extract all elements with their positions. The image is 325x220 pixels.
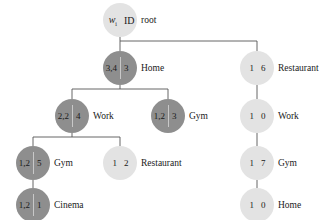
node-home: 3,4 3 (103, 51, 137, 85)
node-id: 4 (76, 111, 81, 121)
node-label: Work (93, 111, 114, 121)
node-label: Restaurant (278, 63, 319, 73)
node-weight: 1 (250, 63, 255, 73)
weight-header: wi (109, 14, 117, 27)
node-restaurant-right: 1 6 (240, 51, 274, 85)
node-weight: 1,2 (19, 158, 30, 168)
node-gym-mid: 1,2 3 (151, 99, 185, 133)
id-header: ID (124, 15, 135, 26)
node-weight: 1 (113, 158, 118, 168)
node-id: 7 (261, 158, 266, 168)
node-label: Work (278, 111, 299, 121)
node-home-right: 1 0 (240, 188, 274, 220)
divider (33, 194, 34, 216)
node-label: Gym (54, 158, 73, 168)
node-gym-left: 1,2 5 (16, 146, 50, 180)
node-weight: 1 (250, 111, 255, 121)
node-id: 6 (261, 63, 266, 73)
divider (120, 57, 121, 79)
node-label: Gym (189, 111, 208, 121)
node-weight: 1 (250, 200, 255, 210)
divider (168, 105, 169, 127)
node-gym-right: 1 7 (240, 146, 274, 180)
node-label: Gym (278, 158, 297, 168)
node-weight: 1,2 (19, 200, 30, 210)
node-weight: 1,2 (154, 111, 165, 121)
node-label: Home (278, 200, 301, 210)
node-id: 5 (37, 158, 42, 168)
root-node: wi ID (103, 3, 137, 37)
node-work: 2,2 4 (55, 99, 89, 133)
node-label: Restaurant (141, 158, 182, 168)
node-work-right: 1 0 (240, 99, 274, 133)
node-restaurant-mid: 1 2 (103, 146, 137, 180)
node-label: Cinema (54, 200, 84, 210)
node-weight: 2,2 (58, 111, 69, 121)
node-weight: 1 (250, 158, 255, 168)
node-id: 3 (124, 63, 129, 73)
node-cinema: 1,2 1 (16, 188, 50, 220)
divider (33, 152, 34, 174)
node-label: Home (141, 63, 164, 73)
node-id: 0 (261, 111, 266, 121)
root-label: root (141, 15, 156, 25)
node-id: 0 (261, 200, 266, 210)
node-id: 3 (172, 111, 177, 121)
node-id: 1 (37, 200, 42, 210)
divider (72, 105, 73, 127)
node-weight: 3,4 (106, 63, 117, 73)
node-id: 2 (124, 158, 129, 168)
